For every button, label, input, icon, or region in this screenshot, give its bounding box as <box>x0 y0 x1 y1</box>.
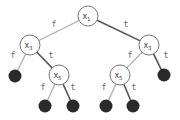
edge-label: t <box>132 83 137 92</box>
edge-label: t <box>164 51 169 60</box>
variable-node-x5: x5 <box>110 65 130 85</box>
edge-label: t <box>49 51 54 60</box>
variable-node-x5: x5 <box>49 65 69 85</box>
leaf-node <box>158 69 171 82</box>
leaf-node <box>67 100 80 113</box>
edge-label: f <box>52 20 57 29</box>
leaf-node <box>39 100 52 113</box>
decision-tree-diagram: ftftftftft x1x3x3x5x5 <box>0 0 180 120</box>
variable-node-x3: x3 <box>20 35 40 55</box>
leaf-node <box>9 70 22 83</box>
edge-labels-layer: ftftftftft <box>11 20 169 92</box>
false-edge <box>34 20 79 42</box>
leaf-node <box>100 100 113 113</box>
edge-label: f <box>41 83 46 92</box>
edge-label: t <box>124 20 129 29</box>
variable-node-x1: x1 <box>78 6 98 26</box>
edge-label: f <box>102 83 107 92</box>
nodes-layer: x1x3x3x5x5 <box>20 6 159 85</box>
leaf-node <box>127 100 140 113</box>
leaves-layer <box>9 69 171 113</box>
true-edge <box>97 20 144 43</box>
edge-label: f <box>11 51 16 60</box>
variable-node-x3: x3 <box>139 35 159 55</box>
edges-layer <box>16 20 162 103</box>
edge-label: f <box>128 51 133 60</box>
edge-label: t <box>71 83 76 92</box>
